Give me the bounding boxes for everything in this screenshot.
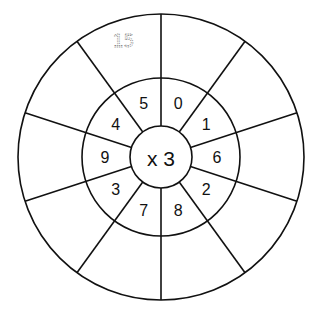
multiplication-wheel: x 3 0162873945 15	[0, 0, 315, 312]
inner-number: 1	[202, 116, 211, 133]
inner-number: 9	[101, 149, 110, 166]
spoke-divider	[179, 41, 245, 132]
multiplier-label: x 3	[147, 147, 175, 170]
inner-number: 8	[174, 202, 183, 219]
inner-number: 5	[139, 95, 148, 112]
inner-number: 2	[202, 181, 211, 198]
spoke-divider	[77, 41, 143, 132]
inner-number: 3	[111, 181, 120, 198]
inner-number: 4	[111, 116, 120, 133]
inner-number: 7	[139, 202, 148, 219]
inner-number: 6	[213, 149, 222, 166]
spoke-divider	[77, 182, 143, 273]
spoke-divider	[179, 182, 245, 273]
answer-cell[interactable]: 15	[113, 31, 135, 51]
inner-number: 0	[174, 95, 183, 112]
